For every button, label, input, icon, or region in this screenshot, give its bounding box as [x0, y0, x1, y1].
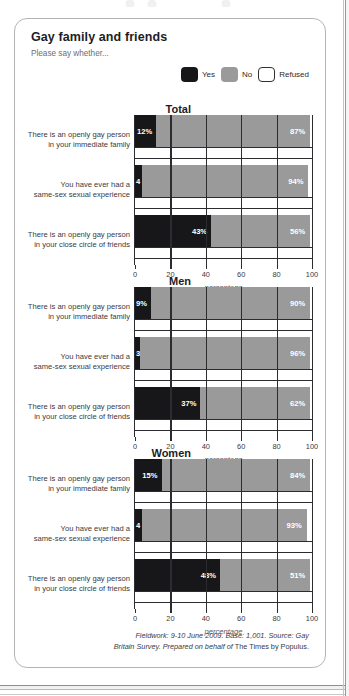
bar-row-label: There is an openly gay personin your clo… [18, 230, 130, 251]
stacked-bar: 48%51% [135, 559, 312, 591]
legend-item-yes: Yes [181, 67, 215, 82]
bar-row-label-line2: in your immediate family [48, 484, 130, 493]
page-title: Gay family and friends [31, 30, 167, 44]
bar-segment-yes: 43% [135, 215, 211, 247]
bar-segment-no: 93% [142, 509, 307, 541]
bar-row: There is an openly gay personin your imm… [135, 115, 312, 165]
bar-row-label-line1: You have ever had a [61, 524, 130, 533]
stacked-bar: 12%87% [135, 115, 312, 147]
bar-row-label-line1: There is an openly gay person [28, 302, 130, 311]
bar-row-label-line1: There is an openly gay person [28, 230, 130, 239]
bar-row-label-line1: There is an openly gay person [28, 474, 130, 483]
bar-value-no: 94% [288, 177, 303, 186]
x-axis-tick [206, 609, 207, 613]
bar-row-label-line1: There is an openly gay person [28, 402, 130, 411]
legend-label-yes: Yes [202, 70, 215, 79]
bar-value-yes: 48% [201, 571, 216, 580]
right-edge-secondary [343, 0, 344, 696]
bar-row: There is an openly gay personin your clo… [135, 559, 312, 609]
chart-footer: Fieldwork: 9-10 June 2009. Base: 1,001. … [45, 631, 309, 653]
footer-line-2-rest: The Times by Populus. [233, 642, 309, 651]
bar-row-label: You have ever had asame-sex sexual exper… [18, 352, 130, 373]
x-axis-tick [170, 437, 171, 441]
bar-value-no: 96% [290, 349, 305, 358]
bar-segment-refused [135, 541, 312, 553]
x-axis-tick-label: 0 [133, 614, 137, 623]
x-axis-tick-label: 80 [272, 614, 280, 623]
x-axis-tick [241, 609, 242, 613]
x-axis-tick-label: 100 [306, 442, 318, 451]
bar-row-label-line2: same-sex sexual experience [34, 534, 130, 543]
bar-value-yes: 43% [192, 227, 207, 236]
chart-legend: YesNoRefused [181, 67, 309, 82]
legend-item-no: No [221, 67, 252, 82]
legend-swatch-yes-icon [181, 67, 198, 82]
x-axis-tick [241, 437, 242, 441]
bar-row-label: There is an openly gay personin your imm… [18, 474, 130, 495]
x-axis-tick-label: 40 [202, 442, 210, 451]
x-axis-tick [277, 609, 278, 613]
bar-value-yes: 15% [142, 471, 157, 480]
bar-row-label-line2: same-sex sexual experience [34, 362, 130, 371]
stacked-bar: 43%56% [135, 215, 312, 247]
bar-segment-yes: 15% [135, 459, 162, 491]
bar-segment-yes: 4 [135, 165, 142, 197]
bar-row-label: There is an openly gay personin your imm… [18, 302, 130, 323]
bar-segment-yes: 12% [135, 115, 156, 147]
x-axis-tick [312, 265, 313, 269]
x-axis-tick [170, 265, 171, 269]
bottom-rule-secondary [0, 694, 349, 695]
group-title-total: Total [166, 103, 191, 115]
legend-item-refused: Refused [258, 67, 309, 82]
x-axis-tick [135, 609, 136, 613]
x-axis-tick [170, 609, 171, 613]
x-axis: 020406080100percentage [135, 609, 312, 610]
plot-area-total: There is an openly gay personin your imm… [134, 115, 312, 265]
legend-label-no: No [242, 70, 252, 79]
x-axis-tick-label: 60 [237, 442, 245, 451]
x-axis: 020406080100percentage [135, 437, 312, 438]
x-axis-tick [312, 609, 313, 613]
bar-row: There is an openly gay personin your clo… [135, 387, 312, 437]
bar-row-label-line2: in your close circle of friends [34, 584, 130, 593]
bar-row-label-line2: in your close circle of friends [34, 412, 130, 421]
bar-row-label: There is an openly gay personin your clo… [18, 402, 130, 423]
x-axis-tick-label: 0 [133, 270, 137, 279]
bar-value-yes: 37% [181, 399, 196, 408]
x-axis-tick-label: 60 [237, 614, 245, 623]
x-axis-tick-label: 20 [166, 614, 174, 623]
bar-row-label: There is an openly gay personin your clo… [18, 574, 130, 595]
bar-value-no: 93% [286, 521, 301, 530]
bar-segment-yes: 4 [135, 509, 142, 541]
bar-segment-no: 90% [151, 287, 310, 319]
chart-card: Gay family and friends Please say whethe… [14, 18, 326, 668]
bar-value-no: 90% [290, 299, 305, 308]
x-axis-tick [135, 265, 136, 269]
bar-segment-no: 51% [220, 559, 310, 591]
plot-tick [312, 115, 313, 265]
bar-row-label-line2: in your immediate family [48, 140, 130, 149]
x-axis-tick-label: 100 [306, 614, 318, 623]
bar-segment-no: 96% [140, 337, 310, 369]
bar-segment-yes: 9% [135, 287, 151, 319]
bar-segment-refused [135, 419, 312, 431]
bar-segment-yes: 48% [135, 559, 220, 591]
footer-line-2-italic: Britain Survey. Prepared on behalf of [114, 642, 233, 651]
x-axis-tick [241, 265, 242, 269]
x-axis-tick-label: 60 [237, 270, 245, 279]
bar-segment-refused [135, 369, 312, 381]
bar-row: You have ever had asame-sex sexual exper… [135, 509, 312, 559]
bar-value-no: 51% [290, 571, 305, 580]
bar-row-label-line2: same-sex sexual experience [34, 190, 130, 199]
page-top-artifact [118, 0, 238, 7]
bar-row: There is an openly gay personin your imm… [135, 287, 312, 337]
bar-segment-refused [135, 197, 312, 209]
bar-row-label-line1: There is an openly gay person [28, 574, 130, 583]
page-subtitle: Please say whether... [31, 49, 109, 58]
x-axis-tick [206, 437, 207, 441]
bar-value-no: 62% [290, 399, 305, 408]
bar-row-label-line2: in your close circle of friends [34, 240, 130, 249]
plot-tick [312, 459, 313, 609]
x-axis-tick-label: 0 [133, 442, 137, 451]
bar-segment-no: 56% [211, 215, 310, 247]
